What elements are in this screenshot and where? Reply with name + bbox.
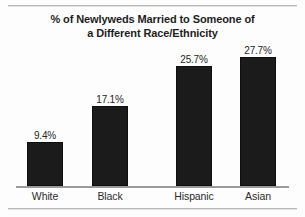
x-tick-label-asian: Asian: [221, 190, 295, 202]
bar-group-black: 17.1%: [92, 106, 128, 186]
x-tick-label-white: White: [8, 190, 82, 202]
x-tick-label-black: Black: [73, 190, 147, 202]
bar-group-white: 9.4%: [27, 142, 63, 186]
bar-asian: [240, 57, 276, 186]
bar-value-white: 9.4%: [13, 130, 77, 141]
bottom-divider-rule-shadow: [8, 209, 297, 210]
bar-value-asian: 27.7%: [226, 45, 290, 56]
bar-group-hispanic: 25.7%: [176, 66, 212, 186]
bar-group-asian: 27.7%: [240, 57, 276, 186]
x-axis-line: [16, 186, 289, 188]
bar-hispanic: [176, 66, 212, 186]
bar-black: [92, 106, 128, 186]
bar-value-hispanic: 25.7%: [162, 54, 226, 65]
chart-figure: % of Newlyweds Married to Someone of a D…: [0, 0, 305, 217]
plot-area: 9.4% 17.1% 25.7% 27.7% White Black Hispa…: [0, 0, 305, 217]
x-tick-label-hispanic: Hispanic: [157, 190, 231, 202]
bar-white: [27, 142, 63, 186]
bar-value-black: 17.1%: [78, 94, 142, 105]
